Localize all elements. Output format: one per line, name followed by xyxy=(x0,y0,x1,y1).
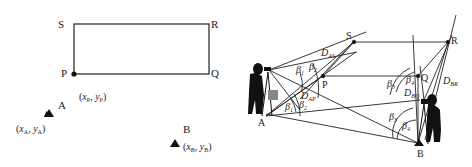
diagram-canvas: S R P Q (xP, yP) A (xA, yA) B (xB, yB) xyxy=(0,0,472,167)
point-s-marker xyxy=(352,40,356,44)
coord-b: (xB, yB) xyxy=(183,141,212,153)
label-b: B xyxy=(183,123,190,135)
surveyor-a-figure xyxy=(248,63,278,116)
label-q-right: Q xyxy=(421,72,429,83)
svg-text:(xB, yB): (xB, yB) xyxy=(183,141,212,153)
point-p-marker xyxy=(71,71,76,76)
svg-text:(xA, yA): (xA, yA) xyxy=(16,123,45,135)
coord-a: (xA, yA) xyxy=(16,123,45,135)
label-q: Q xyxy=(211,67,219,79)
label-d-bq: DBQ xyxy=(403,87,420,99)
svg-text:(xP, yP): (xP, yP) xyxy=(79,91,106,103)
label-s-right: S xyxy=(346,30,352,41)
left-diagram: S R P Q (xP, yP) A (xA, yA) B (xB, yB) xyxy=(16,18,219,153)
label-beta3-lower: β3 xyxy=(388,111,397,123)
label-beta1-upper: β1 xyxy=(295,64,304,76)
label-beta2-upper: β2 xyxy=(308,61,317,73)
label-a-right: A xyxy=(258,117,266,128)
point-p-marker-right xyxy=(321,74,325,78)
label-d-as: DAS xyxy=(320,47,335,59)
label-a: A xyxy=(58,99,66,111)
label-d-br: DBR xyxy=(442,75,458,87)
label-p-right: P xyxy=(322,79,328,90)
ray-b-up xyxy=(413,35,418,143)
line-r-q xyxy=(418,42,448,76)
label-b-right: B xyxy=(417,148,424,159)
station-a-marker xyxy=(44,109,54,117)
label-beta3-upper: β3 xyxy=(386,78,395,90)
building-rectangle xyxy=(74,24,209,74)
label-p: P xyxy=(61,67,67,79)
label-s: S xyxy=(58,18,64,30)
station-b-marker xyxy=(170,139,180,147)
label-r-right: R xyxy=(451,35,458,46)
coord-p: (xP, yP) xyxy=(79,91,106,103)
label-r: R xyxy=(211,18,219,30)
label-beta1-lower: β1 xyxy=(284,101,293,113)
point-q-marker xyxy=(416,74,420,78)
point-r-marker xyxy=(446,40,450,44)
sight-b-r xyxy=(424,35,452,100)
instrument-case-a xyxy=(268,90,278,100)
